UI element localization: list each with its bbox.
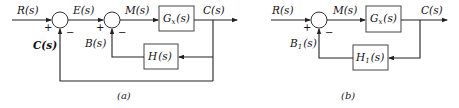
diagram-a: R(s) + − E(s) + − M(s) Gx(s) C(s) H(s) B… xyxy=(12,4,237,101)
summing-junction-b xyxy=(311,12,327,28)
inner-feedback-label-a: B(s) xyxy=(84,37,106,49)
plus-sign-b: + xyxy=(303,22,311,33)
output-label-b: C(s) xyxy=(421,4,443,16)
diagram-b: R(s) + − M(s) Gx(s) C(s) H1(s) B1(s) (b) xyxy=(271,4,447,101)
forward-block-label-b: Gx(s) xyxy=(370,12,397,26)
m-label-b: M(s) xyxy=(332,4,357,16)
minus-sign-j2-a: − xyxy=(118,27,126,38)
feedback-block-label-a: H(s) xyxy=(147,50,172,62)
feedback-label-b: B1(s) xyxy=(289,37,317,51)
outer-feedback-label-a: C(s) xyxy=(33,39,57,51)
minus-sign-j1-a: − xyxy=(66,27,74,38)
m-label-a: M(s) xyxy=(124,4,149,16)
plus-sign-j1-a: + xyxy=(44,22,52,33)
minus-sign-b: − xyxy=(325,27,333,38)
block-diagram-figure: R(s) + − E(s) + − M(s) Gx(s) C(s) H(s) B… xyxy=(0,0,459,108)
summing-junction-1-a xyxy=(52,12,68,28)
caption-a: (a) xyxy=(117,90,131,101)
diagram-svg: R(s) + − E(s) + − M(s) Gx(s) C(s) H(s) B… xyxy=(0,0,459,108)
input-label-a: R(s) xyxy=(16,4,39,16)
caption-b: (b) xyxy=(341,90,355,101)
outer-feedback-path-a xyxy=(60,29,213,81)
forward-block-label-a: Gx(s) xyxy=(163,12,190,26)
input-label-b: R(s) xyxy=(271,4,294,16)
error-label-a: E(s) xyxy=(72,4,94,16)
output-label-a: C(s) xyxy=(203,4,225,16)
plus-sign-j2-a: + xyxy=(96,22,104,33)
inner-feedback-path-a xyxy=(112,29,144,57)
summing-junction-2-a xyxy=(104,12,120,28)
